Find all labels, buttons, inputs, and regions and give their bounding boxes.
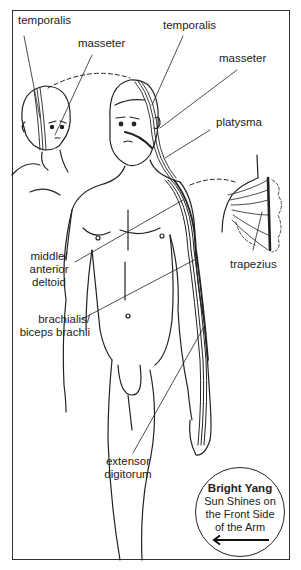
label-brachialis-line2: biceps brachii: [16, 326, 90, 339]
badge-line-2: the Front Side: [196, 508, 284, 521]
label-platysma: platysma: [216, 116, 262, 129]
label-deltoid-line3: deltoid: [24, 276, 74, 289]
bright-yang-badge: Bright Yang Sun Shines on the Front Side…: [195, 467, 285, 557]
label-extensor-digitorum: extensor digitorum: [100, 455, 156, 481]
label-brachialis-line1: brachialis/: [16, 313, 90, 326]
label-temporalis-side: temporalis: [18, 14, 71, 27]
shoulder-connector-dashed: [190, 179, 235, 185]
label-masseter-main: masseter: [219, 52, 266, 65]
torso: [63, 160, 180, 560]
label-trapezius: trapezius: [230, 258, 277, 271]
label-masseter-side: masseter: [78, 37, 125, 50]
label-deltoid-line2: anterior: [24, 263, 74, 276]
label-extensor-line1: extensor: [100, 455, 156, 468]
side-head-figure: [12, 86, 70, 195]
shoulder-detail: [222, 155, 282, 252]
badge-title: Bright Yang: [196, 482, 284, 495]
label-brachialis: brachialis/ biceps brachii: [16, 313, 90, 339]
label-temporalis-main: temporalis: [163, 19, 216, 32]
main-head: [110, 80, 176, 178]
badge-line-3: of the Arm: [196, 521, 284, 534]
label-deltoid-line1: middle/: [24, 250, 74, 263]
head-connector-dashed: [48, 73, 130, 88]
arrow-left-icon: [211, 535, 271, 545]
label-deltoid: middle/ anterior deltoid: [24, 250, 74, 289]
label-extensor-line2: digitorum: [100, 468, 156, 481]
leader-lines: [24, 36, 262, 453]
badge-line-1: Sun Shines on: [196, 495, 284, 508]
